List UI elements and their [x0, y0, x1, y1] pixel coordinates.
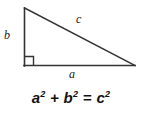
equation-term-a: a — [32, 89, 41, 106]
equation-operator-equals: = — [78, 89, 96, 106]
pythagorean-theorem-figure: b c a a2 + b2 = c2 — [0, 0, 142, 115]
side-label-b: b — [4, 29, 10, 41]
equation-operator-plus: + — [46, 89, 64, 106]
equation-term-b: b — [64, 89, 73, 106]
equation-exponent-c: 2 — [105, 89, 110, 99]
side-label-a: a — [69, 68, 75, 80]
side-label-c: c — [76, 13, 81, 25]
equation-term-c: c — [96, 89, 105, 106]
pythagorean-equation: a2 + b2 = c2 — [0, 88, 142, 108]
right-angle-marker-icon — [25, 57, 34, 66]
